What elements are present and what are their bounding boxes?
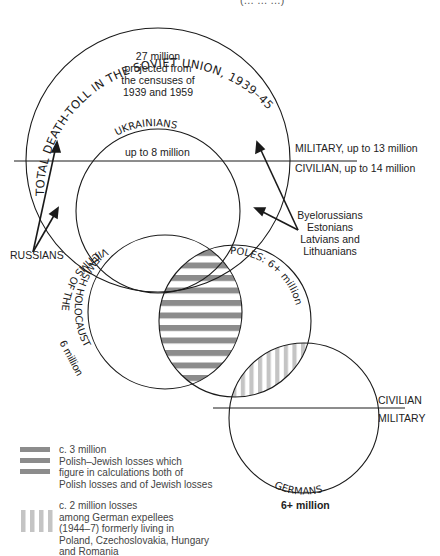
germans-civilian-label: CIVILIAN bbox=[378, 394, 422, 406]
russians-label: RUSSIANS bbox=[10, 249, 64, 261]
soviet-civilian-label: CIVILIAN, up to 14 million bbox=[295, 162, 415, 174]
soviet-summary: 27 million projected from the censuses o… bbox=[118, 50, 198, 98]
legend-polish-jewish: c. 3 million Polish–Jewish losses which … bbox=[59, 444, 212, 490]
baltic-label: Byelorussians Estonians Latvians and Lit… bbox=[290, 209, 370, 257]
legend-swatch-horizontal bbox=[20, 447, 50, 474]
germans-military-label: MILITARY bbox=[378, 412, 425, 424]
svg-text:UKRAINIANS: UKRAINIANS bbox=[113, 117, 179, 137]
soviet-military-label: MILITARY, up to 13 million bbox=[295, 142, 418, 154]
legend-swatch-vertical bbox=[21, 510, 53, 532]
ukrainians-value: up to 8 million bbox=[125, 146, 190, 158]
legend-expellees: c. 2 million losses among German expelle… bbox=[59, 500, 209, 556]
germans-value: 6+ million bbox=[281, 499, 330, 511]
svg-text:GERMANS: GERMANS bbox=[273, 479, 323, 496]
cut-off-caption: (… … …) bbox=[240, 0, 284, 6]
